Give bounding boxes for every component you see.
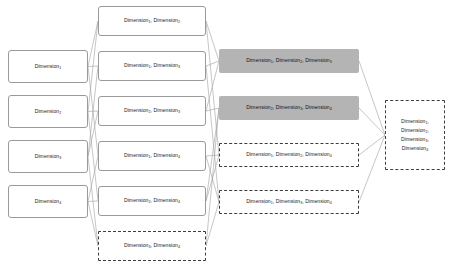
node-label: Dimension2, Dimension3, Dimension4 xyxy=(246,104,332,112)
dimension-lattice-diagram: Dimension1Dimension2Dimension3Dimension4… xyxy=(0,0,454,272)
node-p14: Dimension1, Dimension4 xyxy=(98,141,206,171)
node-label: Dimension1, Dimension2, Dimension3 xyxy=(246,57,332,65)
node-t234: Dimension2, Dimension3, Dimension4 xyxy=(219,96,359,120)
edge-p23-to-t234 xyxy=(206,108,219,111)
node-label-line: Dimension4 xyxy=(402,144,429,153)
node-label-line: Dimension2, xyxy=(401,126,429,135)
node-label: Dimension2, Dimension4 xyxy=(124,197,180,205)
node-d4: Dimension4 xyxy=(8,185,88,218)
node-p34: Dimension3, Dimension4 xyxy=(98,231,206,261)
node-label: Dimension1, Dimension2, Dimension4 xyxy=(246,151,332,159)
node-p23: Dimension2, Dimension3 xyxy=(98,96,206,126)
node-all: Dimension1,Dimension2,Dimension3,Dimensi… xyxy=(385,100,445,170)
edge-p13-to-t123 xyxy=(206,61,219,66)
node-t123: Dimension1, Dimension2, Dimension3 xyxy=(219,49,359,73)
edge-d4-to-p24 xyxy=(88,201,98,202)
node-p13: Dimension1, Dimension3 xyxy=(98,51,206,81)
node-label-line: Dimension1, xyxy=(401,117,429,126)
edge-d1-to-p12 xyxy=(88,21,98,67)
node-label: Dimension3, Dimension4 xyxy=(124,242,180,250)
node-label: Dimension1, Dimension3, Dimension4 xyxy=(246,198,332,206)
edge-p34-to-t234 xyxy=(206,108,219,246)
edge-p24-to-t234 xyxy=(206,108,219,201)
node-d3: Dimension3 xyxy=(8,140,88,173)
node-label: Dimension4 xyxy=(35,198,62,206)
edge-d2-to-p24 xyxy=(88,112,98,202)
node-label: Dimension3 xyxy=(35,153,62,161)
node-p12: Dimension1, Dimension2 xyxy=(98,6,206,36)
node-label: Dimension1 xyxy=(35,63,62,71)
node-label: Dimension1, Dimension3 xyxy=(124,62,180,70)
node-label: Dimension1, Dimension2 xyxy=(124,17,180,25)
node-label: Dimension2 xyxy=(35,108,62,116)
node-label: Dimension1, Dimension4 xyxy=(124,152,180,160)
edge-d4-to-p14 xyxy=(88,156,98,202)
node-label-line: Dimension3, xyxy=(401,135,429,144)
node-d1: Dimension1 xyxy=(8,50,88,83)
edge-t123-to-all xyxy=(359,61,385,135)
edge-d4-to-p34 xyxy=(88,202,98,247)
node-label: Dimension2, Dimension3 xyxy=(124,107,180,115)
edge-t234-to-all xyxy=(359,108,385,135)
node-p24: Dimension2, Dimension4 xyxy=(98,186,206,216)
node-t134: Dimension1, Dimension3, Dimension4 xyxy=(219,190,359,214)
node-d2: Dimension2 xyxy=(8,95,88,128)
edge-d3-to-p23 xyxy=(88,111,98,157)
node-t124: Dimension1, Dimension2, Dimension4 xyxy=(219,143,359,167)
